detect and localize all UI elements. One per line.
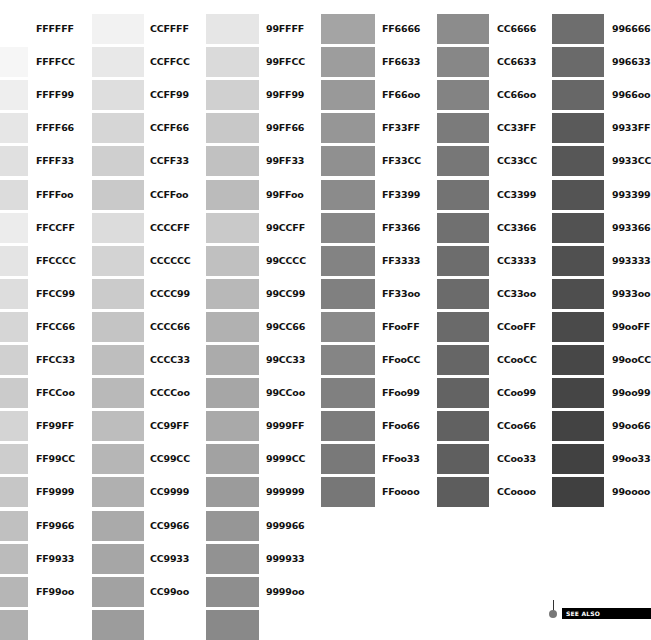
color-swatch [92, 511, 144, 541]
color-swatch [0, 180, 28, 210]
hex-code-label: FF66oo [382, 89, 420, 101]
color-swatch [92, 80, 144, 110]
hex-code-label: FF6633 [382, 56, 420, 68]
color-swatch [0, 411, 28, 441]
color-swatch [92, 312, 144, 342]
hex-code-label: FF9933 [36, 553, 74, 565]
hex-code-label: FFCC33 [36, 354, 75, 366]
hex-code-label: 99FFFF [266, 23, 304, 35]
hex-code-label: CC99CC [150, 453, 190, 465]
color-swatch [437, 411, 489, 441]
hex-code-label: CCoooo [497, 486, 536, 498]
hex-code-label: CC9933 [150, 553, 189, 565]
hex-code-label: FFCC99 [36, 288, 75, 300]
hex-code-label: 99CC33 [266, 354, 305, 366]
color-swatch [92, 279, 144, 309]
hex-code-label: 9999FF [266, 420, 304, 432]
hex-code-label: CC9999 [150, 486, 189, 498]
color-swatch [552, 378, 604, 408]
hex-code-label: CCCCFF [150, 222, 190, 234]
hex-code-label: 99oo66 [612, 420, 650, 432]
hex-code-label: FFFF99 [36, 89, 74, 101]
hex-code-label: 99CCCC [266, 255, 306, 267]
color-swatch [206, 146, 259, 176]
color-swatch [321, 279, 375, 309]
hex-code-label: 99CCFF [266, 222, 305, 234]
color-swatch [206, 113, 259, 143]
hex-code-label: FF3366 [382, 222, 420, 234]
hex-code-label: CCFFFF [150, 23, 189, 35]
hex-code-label: 9999oo [266, 586, 304, 598]
hex-code-label: 99FF99 [266, 89, 304, 101]
hex-code-label: FFooFF [382, 321, 419, 333]
hex-code-label: 996666 [612, 23, 650, 35]
color-swatch [206, 279, 259, 309]
color-swatch [92, 477, 144, 507]
color-swatch [206, 246, 259, 276]
hex-code-label: CCoo99 [497, 387, 536, 399]
color-swatch [0, 444, 28, 474]
color-swatch [437, 246, 489, 276]
hex-code-label: 99CCoo [266, 387, 305, 399]
hex-code-label: CCFF66 [150, 122, 189, 134]
hex-code-label: FFoo33 [382, 453, 420, 465]
color-swatch [0, 312, 28, 342]
hex-code-label: CC33CC [497, 155, 537, 167]
hex-code-label: FF33CC [382, 155, 421, 167]
hex-code-label: FF9966 [36, 520, 74, 532]
hex-code-label: CCCCoo [150, 387, 190, 399]
hex-code-label: CCoo66 [497, 420, 536, 432]
color-swatch [321, 246, 375, 276]
color-swatch [206, 378, 259, 408]
color-swatch [321, 378, 375, 408]
hex-code-label: FFFF33 [36, 155, 74, 167]
color-swatch [321, 146, 375, 176]
color-swatch [92, 47, 144, 77]
hex-code-label: 99oo33 [612, 453, 650, 465]
hex-code-label: CC6666 [497, 23, 536, 35]
hex-code-label: CCFFCC [150, 56, 190, 68]
color-swatch [206, 411, 259, 441]
hex-code-label: CCFF99 [150, 89, 189, 101]
color-swatch [321, 14, 375, 44]
color-swatch [206, 14, 259, 44]
color-swatch [0, 213, 28, 243]
hex-code-label: CCooFF [497, 321, 536, 333]
color-swatch [552, 47, 604, 77]
color-swatch [206, 47, 259, 77]
color-swatch [0, 544, 28, 574]
hex-code-label: 99FFoo [266, 189, 304, 201]
color-swatch [0, 113, 28, 143]
color-swatch [92, 411, 144, 441]
color-swatch [552, 14, 604, 44]
color-swatch [437, 345, 489, 375]
hex-code-label: 9933oo [612, 288, 650, 300]
hex-code-label: 99FFCC [266, 56, 305, 68]
hex-code-label: CCoo33 [497, 453, 536, 465]
color-swatch [437, 80, 489, 110]
color-swatch [321, 312, 375, 342]
color-swatch [0, 378, 28, 408]
hex-code-label: 993366 [612, 222, 650, 234]
color-swatch [92, 180, 144, 210]
color-swatch [552, 246, 604, 276]
color-swatch-partial [92, 610, 144, 640]
color-swatch [552, 444, 604, 474]
hex-code-label: FFFFFF [36, 23, 74, 35]
color-swatch [0, 47, 28, 77]
color-swatch [206, 511, 259, 541]
color-swatch [552, 411, 604, 441]
hex-code-label: 9966oo [612, 89, 650, 101]
hex-code-label: CC33FF [497, 122, 536, 134]
color-swatch [321, 444, 375, 474]
hex-code-label: CC99oo [150, 586, 189, 598]
hex-code-label: FF33oo [382, 288, 420, 300]
hex-code-label: CC6633 [497, 56, 536, 68]
hex-code-label: 993333 [612, 255, 650, 267]
hex-code-label: FFFF66 [36, 122, 74, 134]
hex-code-label: FFCC66 [36, 321, 75, 333]
color-swatch [437, 444, 489, 474]
color-swatch [206, 312, 259, 342]
color-swatch [92, 444, 144, 474]
color-swatch [0, 80, 28, 110]
